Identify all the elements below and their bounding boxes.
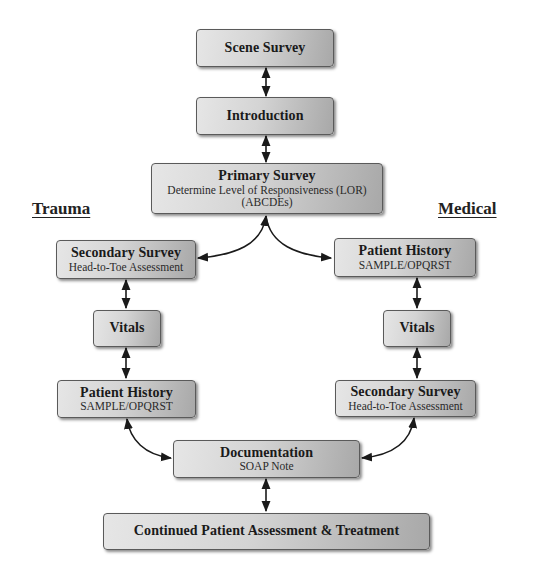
node-subtitle: (ABCDEs) — [241, 196, 292, 208]
node-title: Introduction — [226, 109, 303, 124]
documentation-node: Documentation SOAP Note — [173, 440, 360, 478]
primary-survey-node: Primary Survey Determine Level of Respon… — [151, 163, 383, 214]
node-title: Secondary Survey — [350, 385, 460, 400]
node-title: Patient History — [80, 386, 173, 401]
node-title: Documentation — [220, 446, 313, 461]
node-title: Secondary Survey — [71, 246, 181, 261]
node-subtitle: SAMPLE/OPQRST — [359, 259, 452, 271]
node-title: Vitals — [109, 321, 144, 336]
medical-patient-history-node: Patient History SAMPLE/OPQRST — [334, 238, 476, 277]
node-subtitle: SAMPLE/OPQRST — [80, 400, 173, 412]
node-subtitle: Head-to-Toe Assessment — [348, 400, 463, 412]
node-title: Primary Survey — [218, 169, 315, 184]
node-title: Scene Survey — [225, 41, 306, 56]
node-subtitle: Head-to-Toe Assessment — [69, 261, 184, 273]
trauma-label: Trauma — [32, 199, 90, 219]
trauma-vitals-node: Vitals — [93, 310, 161, 347]
trauma-patient-history-node: Patient History SAMPLE/OPQRST — [57, 380, 196, 418]
arrow-primary-medical — [266, 216, 331, 258]
medical-secondary-survey-node: Secondary Survey Head-to-Toe Assessment — [335, 380, 476, 417]
scene-survey-node: Scene Survey — [196, 29, 334, 67]
introduction-node: Introduction — [196, 97, 334, 135]
node-title: Vitals — [399, 321, 434, 336]
connector-arrows — [0, 0, 540, 582]
arrow-medical-documentation — [362, 418, 414, 458]
arrow-primary-trauma — [198, 216, 266, 258]
node-subtitle: SOAP Note — [239, 460, 293, 472]
node-title: Continued Patient Assessment & Treatment — [134, 524, 399, 539]
medical-label: Medical — [438, 199, 497, 219]
arrow-trauma-documentation — [127, 419, 171, 458]
node-title: Patient History — [359, 244, 452, 259]
trauma-secondary-survey-node: Secondary Survey Head-to-Toe Assessment — [56, 240, 196, 279]
continued-assessment-node: Continued Patient Assessment & Treatment — [103, 513, 430, 550]
node-subtitle: Determine Level of Responsiveness (LOR) — [167, 184, 366, 196]
medical-vitals-node: Vitals — [383, 310, 451, 347]
